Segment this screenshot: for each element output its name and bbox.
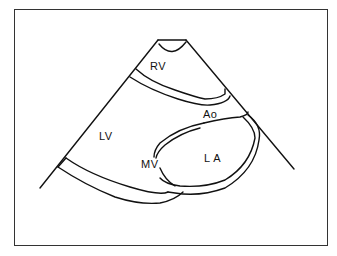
label-ao: Ao xyxy=(203,108,217,120)
label-lv: LV xyxy=(99,130,113,142)
heart-diagram xyxy=(0,0,337,256)
label-mv: MV xyxy=(141,158,159,170)
label-rv: RV xyxy=(150,60,166,72)
label-la: L A xyxy=(204,152,221,164)
